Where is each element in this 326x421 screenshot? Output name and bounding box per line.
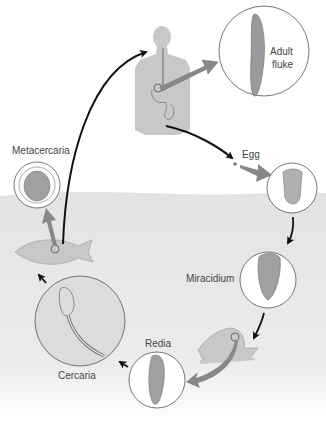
egg-stage [267,163,317,213]
miracidium-stage [240,252,296,308]
cercaria-label: Cercaria [58,370,96,382]
adult-fluke-label-2: fluke [272,59,293,71]
cercaria-stage [35,276,125,366]
redia-label: Redia [145,338,171,350]
egg-dot [233,162,237,166]
metacercaria-label: Metacercaria [12,145,70,157]
miracidium-label: Miracidium [186,273,234,285]
adult-fluke-stage [219,6,309,96]
metacercaria-stage [14,162,60,208]
arrow-egg-to-circle [240,164,272,182]
adult-fluke-label-1: Adult [270,46,293,58]
egg-label: Egg [242,149,260,161]
redia-stage [129,352,185,408]
